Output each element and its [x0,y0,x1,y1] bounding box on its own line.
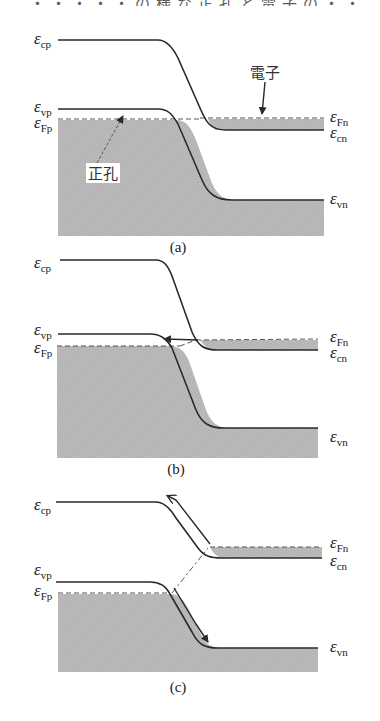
conduction-band [60,260,318,350]
label-evn: εvn [330,637,348,658]
electron-fill [210,547,322,558]
fermi-transition [172,548,208,593]
label-ecp: εcp [34,29,52,50]
label-ecp: εcp [34,253,52,274]
fermi-level-n [196,339,318,340]
panel-a: 電子 正孔 εcp εvp εFp εFn εcn εvn (a) [34,29,349,256]
hole-label: 正孔 [88,165,118,183]
electron-pointer [262,82,265,114]
electron-fill [200,340,318,350]
valence-fill [57,346,318,458]
band-diagram: 電子 正孔 εcp εvp εFp εFn εcn εvn (a) εcp εv… [0,0,380,721]
electron-fill [208,119,324,130]
valence-fill [58,594,318,672]
label-efp: εFp [34,581,53,602]
caption-c: (c) [170,679,187,696]
caption-a: (a) [170,239,187,256]
tunneling-arrow [164,339,198,340]
electron-label: 電子 [250,64,280,82]
caption-b: (b) [167,461,185,478]
fermi-transition [180,340,196,346]
label-ecn: εcn [330,551,348,572]
panel-c: εcp εvp εFp εFn εcn εvn (c) [34,495,349,696]
label-efp: εFp [34,338,53,359]
conduction-band [58,40,324,130]
label-ecp: εcp [34,495,52,516]
label-evp: εvp [34,560,52,581]
label-evn: εvn [330,189,348,210]
panel-b: εcp εvp εFp εFn εcn εvn (b) [34,253,349,478]
label-evn: εvn [330,427,348,448]
